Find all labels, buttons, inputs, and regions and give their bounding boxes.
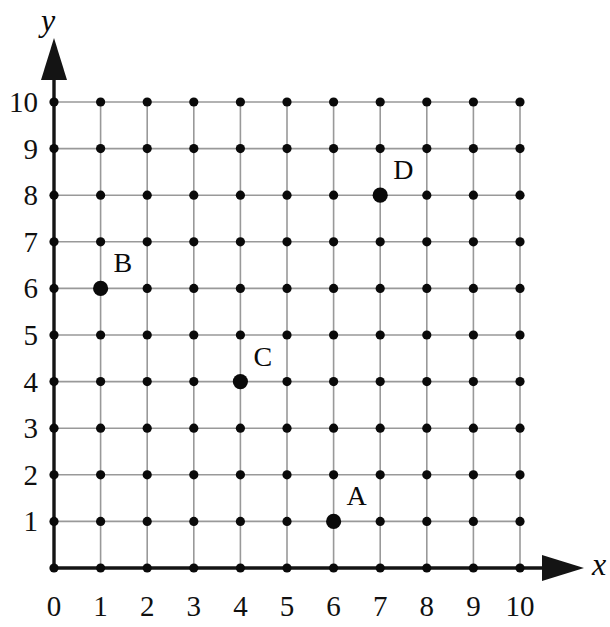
lattice-dot: [96, 191, 105, 200]
lattice-dot: [282, 144, 291, 153]
x-tick-label: 3: [187, 592, 202, 621]
lattice-dot: [282, 237, 291, 246]
lattice-dot: [422, 144, 431, 153]
lattice-dot: [329, 424, 338, 433]
lattice-dot: [515, 424, 524, 433]
lattice-dot: [469, 517, 478, 526]
lattice-dot: [236, 517, 245, 526]
y-tick-label: 8: [24, 181, 39, 210]
lattice-dot: [376, 284, 385, 293]
lattice-dot: [189, 237, 198, 246]
lattice-dot: [282, 284, 291, 293]
lattice-dot: [143, 144, 152, 153]
x-axis-arrowhead: [542, 555, 584, 581]
lattice-dot: [469, 237, 478, 246]
lattice-dot: [49, 424, 58, 433]
y-tick-label: 5: [24, 321, 39, 350]
lattice-dot: [515, 284, 524, 293]
lattice-dot: [469, 144, 478, 153]
lattice-dot: [236, 330, 245, 339]
lattice-dot: [96, 424, 105, 433]
x-tick-label: 4: [233, 592, 248, 621]
lattice-dot: [96, 237, 105, 246]
lattice-dot: [515, 144, 524, 153]
lattice-dot: [49, 517, 58, 526]
lattice-dot: [189, 424, 198, 433]
y-tick-label: 10: [9, 88, 38, 117]
y-tick-label: 9: [24, 134, 39, 163]
lattice-dot: [49, 330, 58, 339]
y-axis-label: y: [41, 4, 55, 36]
lattice-dot: [329, 563, 338, 572]
lattice-dot: [515, 191, 524, 200]
lattice-dot: [329, 97, 338, 106]
lattice-dot: [49, 377, 58, 386]
lattice-dot: [282, 470, 291, 479]
y-tick-label: 4: [24, 367, 39, 396]
lattice-dot: [422, 563, 431, 572]
lattice-dot: [143, 284, 152, 293]
marked-point-d: [373, 188, 388, 203]
x-tick-label: 0: [47, 592, 62, 621]
lattice-dot: [49, 144, 58, 153]
lattice-dot: [376, 330, 385, 339]
lattice-dot: [469, 191, 478, 200]
lattice-dot: [422, 424, 431, 433]
lattice-dot: [189, 144, 198, 153]
lattice-dot: [96, 470, 105, 479]
lattice-dot: [469, 284, 478, 293]
lattice-dot: [189, 330, 198, 339]
lattice-dot: [189, 97, 198, 106]
lattice-dot: [49, 237, 58, 246]
lattice-dot: [376, 377, 385, 386]
lattice-dot: [49, 284, 58, 293]
grid-plot-canvas: [0, 0, 610, 627]
x-tick-label: 9: [466, 592, 481, 621]
lattice-dot: [376, 563, 385, 572]
marked-point-b: [93, 281, 108, 296]
lattice-dot: [329, 191, 338, 200]
x-tick-label: 2: [140, 592, 155, 621]
lattice-dot: [282, 563, 291, 572]
lattice-dot: [49, 97, 58, 106]
lattice-dot: [422, 330, 431, 339]
lattice-dot: [236, 424, 245, 433]
lattice-dot: [329, 144, 338, 153]
lattice-dot: [329, 377, 338, 386]
lattice-dot: [515, 517, 524, 526]
x-tick-label: 1: [93, 592, 108, 621]
lattice-dot: [469, 563, 478, 572]
lattice-dot: [189, 470, 198, 479]
lattice-dot: [236, 97, 245, 106]
lattice-dot: [422, 284, 431, 293]
lattice-dot: [515, 330, 524, 339]
lattice-dot: [143, 563, 152, 572]
lattice-dot: [469, 330, 478, 339]
lattice-dot: [282, 424, 291, 433]
lattice-dot: [422, 237, 431, 246]
lattice-dot: [376, 144, 385, 153]
lattice-dot: [515, 470, 524, 479]
lattice-dot: [236, 144, 245, 153]
lattice-dot: [236, 237, 245, 246]
lattice-dot: [143, 237, 152, 246]
lattice-dot: [329, 237, 338, 246]
lattice-dot: [282, 191, 291, 200]
y-tick-label: 1: [24, 507, 39, 536]
lattice-dot: [329, 284, 338, 293]
lattice-dot: [282, 97, 291, 106]
lattice-dot: [143, 330, 152, 339]
lattice-dot: [49, 563, 58, 572]
lattice-dot: [189, 284, 198, 293]
lattice-dot: [96, 144, 105, 153]
marked-point-a: [326, 514, 341, 529]
coordinate-grid-figure: ABCD01234567891012345678910yx: [0, 0, 610, 627]
point-label-a: A: [347, 482, 367, 510]
lattice-dot: [422, 191, 431, 200]
lattice-dot: [143, 191, 152, 200]
lattice-dot: [422, 97, 431, 106]
lattice-dot: [469, 470, 478, 479]
lattice-dot: [376, 517, 385, 526]
x-tick-label: 6: [326, 592, 341, 621]
y-tick-label: 6: [24, 274, 39, 303]
